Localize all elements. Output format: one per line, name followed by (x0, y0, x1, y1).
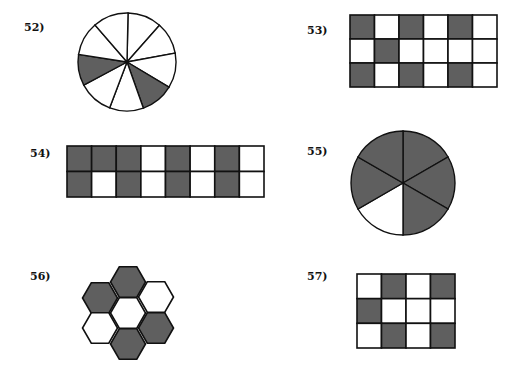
grid-cell (357, 299, 382, 324)
grid-cell (406, 274, 431, 299)
grid-cell (357, 274, 382, 299)
grid-cell (382, 299, 407, 324)
grid-cell (431, 274, 456, 299)
fraction-grid-57 (0, 0, 517, 387)
grid-cell (357, 323, 382, 348)
grid-cell (431, 323, 456, 348)
grid-cell (406, 299, 431, 324)
grid-cell (406, 323, 431, 348)
grid-cell (431, 299, 456, 324)
grid-cell (382, 323, 407, 348)
grid-cell (382, 274, 407, 299)
